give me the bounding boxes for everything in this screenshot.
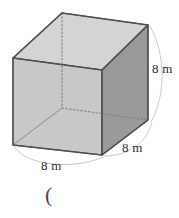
cube-face-front-left	[13, 58, 102, 155]
cube-drawing	[0, 0, 179, 218]
dimension-label-depth: 8 m	[122, 141, 142, 154]
stray-parenthesis-text: (	[45, 184, 52, 206]
dimension-label-width: 8 m	[41, 159, 61, 172]
dimension-label-height: 8 m	[152, 62, 172, 75]
cube-figure: 8 m 8 m 8 m (	[0, 0, 179, 218]
